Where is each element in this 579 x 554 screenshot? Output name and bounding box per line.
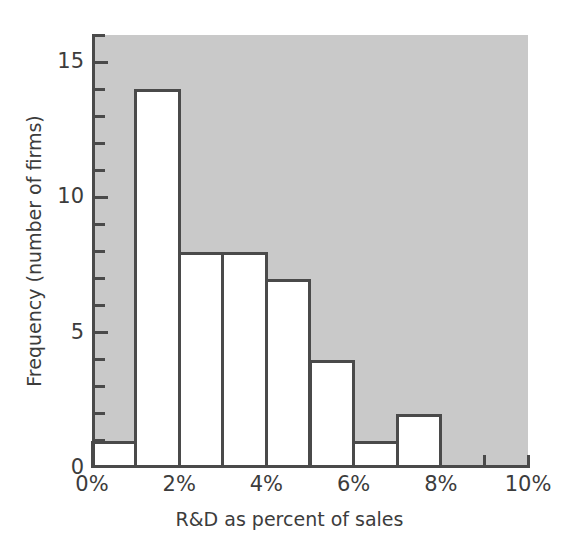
x-axis-major-tick [265,455,268,468]
histogram-bar [91,441,138,468]
y-axis-minor-tick [92,439,105,442]
y-axis-minor-tick [92,34,105,37]
x-axis-major-tick [527,455,530,468]
y-axis-minor-tick [92,250,105,253]
y-axis-minor-tick [92,142,105,145]
x-axis-major-tick [439,455,442,468]
x-axis-title: R&D as percent of sales [0,508,579,530]
x-axis-tick-label: 4% [226,474,306,495]
x-axis-minor-tick [309,455,312,468]
y-axis-minor-tick [92,115,105,118]
x-axis-minor-tick [221,455,224,468]
y-axis-major-tick [92,196,108,199]
x-axis-tick-label: 8% [401,474,481,495]
histogram-figure: 051015 0%2%4%6%8%10% Frequency (number o… [0,0,579,554]
histogram-bar [352,441,399,468]
x-axis-major-tick [352,455,355,468]
y-axis-minor-tick [92,223,105,226]
x-axis-minor-tick [396,455,399,468]
x-axis-minor-tick [134,455,137,468]
histogram-bar [309,360,356,468]
x-axis-minor-tick [483,455,486,468]
histogram-bar [396,414,443,468]
y-axis-minor-tick [92,385,105,388]
x-axis-tick-label: 10% [488,474,568,495]
x-axis-major-tick [178,455,181,468]
x-axis-tick-label: 6% [314,474,394,495]
histogram-bar [178,252,225,469]
y-axis-minor-tick [92,304,105,307]
y-axis-minor-tick [92,277,105,280]
y-axis-tick-label: 5 [48,322,84,343]
y-axis-tick-label: 10 [48,186,84,207]
y-axis-minor-tick [92,169,105,172]
y-axis-minor-tick [92,88,105,91]
y-axis-major-tick [92,61,108,64]
x-axis-tick-label: 0% [52,474,132,495]
y-axis-title: Frequency (number of firms) [23,81,45,421]
histogram-bar [221,252,268,469]
y-axis-minor-tick [92,412,105,415]
x-axis-tick-label: 2% [139,474,219,495]
y-axis-tick-label: 15 [48,51,84,72]
histogram-bar [265,279,312,468]
y-axis-minor-tick [92,358,105,361]
histogram-bar [134,89,181,468]
y-axis-major-tick [92,331,108,334]
